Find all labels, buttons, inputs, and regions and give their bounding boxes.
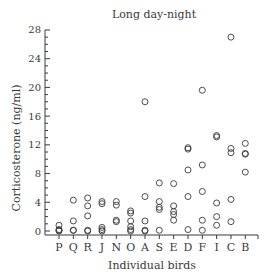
data-point (99, 228, 105, 234)
data-point (156, 199, 162, 205)
data-point (142, 194, 148, 200)
data-point (228, 34, 234, 40)
data-point (156, 227, 162, 233)
data-points (56, 34, 248, 234)
data-point (171, 217, 177, 223)
x-axis: PQRJNOASEDFICB (45, 235, 258, 254)
y-tick-label: 16 (28, 111, 41, 122)
x-category-label: I (214, 241, 218, 254)
data-point (199, 227, 205, 233)
data-point (128, 228, 134, 234)
data-point (70, 218, 76, 224)
data-point (171, 203, 177, 209)
data-point (214, 133, 220, 139)
data-point (70, 227, 76, 233)
data-point (228, 219, 234, 225)
data-point (242, 140, 248, 146)
y-tick-label: 20 (28, 82, 41, 93)
y-tick-label: 8 (35, 168, 41, 179)
data-point (85, 213, 91, 219)
y-tick-label: 24 (28, 53, 41, 64)
data-point (85, 195, 91, 201)
x-category-label: R (84, 241, 93, 254)
data-point (70, 197, 76, 203)
x-category-label: E (170, 241, 178, 254)
data-point (185, 145, 191, 151)
data-point (113, 217, 119, 223)
x-category-label: Q (69, 241, 78, 254)
x-axis-title: Individual birds (108, 259, 196, 272)
data-point (185, 194, 191, 200)
data-point (113, 202, 119, 208)
x-category-label: N (112, 241, 122, 254)
data-point (199, 162, 205, 168)
x-category-label: O (126, 241, 135, 254)
data-point (242, 169, 248, 175)
x-category-label: J (99, 241, 104, 254)
scatter-chart: Long day-night 0481216202428 PQRJNOASEDF… (0, 0, 272, 280)
x-category-label: F (198, 241, 206, 254)
x-category-label: S (156, 241, 164, 254)
data-point (142, 218, 148, 224)
data-point (214, 134, 220, 140)
y-axis: 0481216202428 (28, 24, 50, 236)
data-point (228, 196, 234, 202)
x-category-label: C (227, 241, 235, 254)
data-point (228, 150, 234, 156)
data-point (199, 87, 205, 93)
data-point (199, 217, 205, 223)
data-point (214, 214, 220, 220)
y-tick-label: 0 (35, 226, 41, 237)
data-point (185, 167, 191, 173)
x-category-label: B (241, 241, 249, 254)
chart-title: Long day-night (112, 8, 197, 21)
data-point (214, 222, 220, 228)
data-point (128, 218, 134, 224)
data-point (199, 189, 205, 195)
data-point (142, 99, 148, 105)
data-point (185, 227, 191, 233)
y-tick-label: 4 (35, 197, 41, 208)
data-point (113, 219, 119, 225)
x-category-label: A (140, 241, 150, 254)
y-tick-label: 28 (28, 24, 41, 35)
data-point (156, 180, 162, 186)
y-axis-title: Corticosterone (ng/ml) (10, 85, 23, 212)
data-point (214, 200, 220, 206)
data-point (185, 146, 191, 152)
x-category-label: D (184, 241, 193, 254)
x-category-label: P (55, 241, 63, 254)
data-point (85, 203, 91, 209)
data-point (171, 181, 177, 187)
y-tick-label: 12 (28, 139, 41, 150)
